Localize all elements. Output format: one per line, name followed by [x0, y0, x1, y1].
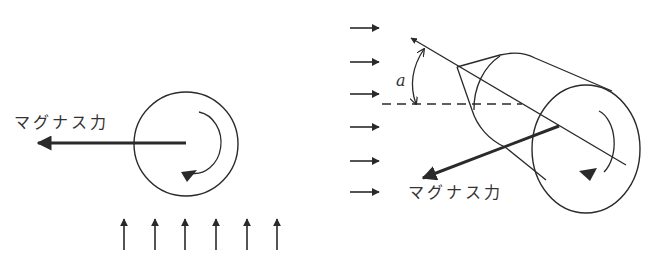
cylinder-bottom-edge: [505, 147, 546, 180]
magnus-force-figure: マグナス力 a: [0, 0, 654, 277]
magnus-force-label: マグナス力: [408, 183, 503, 202]
angle-label: a: [396, 71, 406, 90]
rotation-arrow-icon: [190, 112, 221, 173]
magnus-force-arrow: [423, 126, 559, 178]
rotation-arrowhead-icon: [181, 170, 197, 182]
rotation-arrow-icon: [599, 111, 614, 172]
angle-arc: [412, 49, 424, 104]
cylinder-right-end: [532, 85, 640, 213]
magnus-force-label: マグナス力: [14, 113, 109, 132]
cylinder-axis: [411, 38, 626, 165]
right-panel: a マグナス力: [350, 28, 640, 213]
flow-arrows-right: [350, 28, 379, 192]
rotation-arrowhead-icon: [579, 168, 597, 181]
flow-arrows-up: [124, 219, 277, 250]
left-panel: マグナス力: [14, 92, 277, 250]
